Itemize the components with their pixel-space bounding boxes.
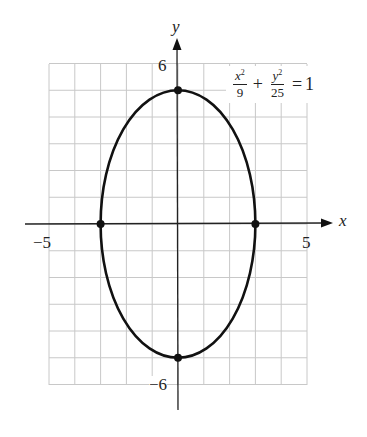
vertex-point	[251, 220, 259, 228]
ellipse-equation: x2 9 + y2 25 = 1	[226, 66, 318, 103]
eq-y-den: 25	[269, 85, 286, 101]
eq-x-den: 9	[235, 85, 246, 101]
vertex-point	[97, 220, 105, 228]
eq-rhs: 1	[305, 74, 314, 95]
x-axis-label: x	[339, 212, 347, 229]
y-min-tick-label: −6	[149, 376, 167, 393]
y-axis-arrow-icon	[173, 38, 182, 50]
x-max-tick-label: 5	[302, 234, 311, 251]
x-min-tick-label: −5	[33, 234, 51, 251]
y-axis-label: y	[172, 18, 180, 35]
eq-equals: =	[292, 74, 302, 95]
y-max-tick-label: 6	[158, 57, 167, 74]
vertex-point	[174, 86, 182, 94]
vertex-point	[174, 354, 182, 362]
fraction-x: x2 9	[233, 68, 247, 101]
x-axis-arrow-icon	[321, 219, 333, 228]
eq-plus: +	[253, 74, 263, 95]
fraction-y: y2 25	[269, 68, 286, 101]
eq-x-exp: 2	[241, 68, 245, 77]
eq-y-exp: 2	[278, 68, 282, 77]
x-axis	[25, 219, 333, 228]
